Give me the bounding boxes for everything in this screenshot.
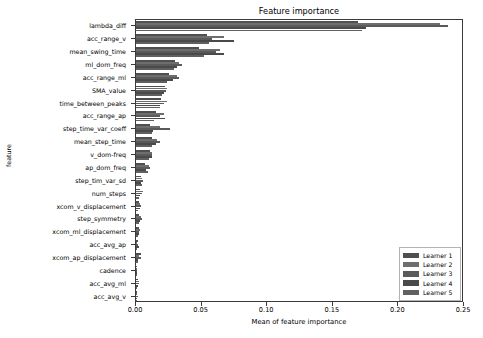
y-tick-mark	[131, 141, 135, 142]
y-tick-mark	[131, 38, 135, 39]
bar-group	[136, 47, 462, 57]
bar	[136, 132, 152, 134]
legend-label: Learner 1	[423, 252, 453, 259]
y-tick-mark	[131, 115, 135, 116]
bar	[136, 235, 138, 237]
x-tick-label: 0.25	[443, 306, 483, 314]
y-tick-label: acc_avg_v	[0, 292, 126, 299]
bar	[136, 94, 162, 96]
bar	[136, 145, 152, 147]
y-tick-label: xcom_v_displacement	[0, 202, 126, 209]
x-tick-mark	[397, 302, 398, 306]
legend-item[interactable]: Learner 4	[403, 279, 457, 288]
y-tick-mark	[131, 257, 135, 258]
y-tick-mark	[131, 25, 135, 26]
bar	[136, 287, 137, 289]
x-axis-label: Mean of feature importance	[135, 318, 463, 326]
y-tick-label: step_time_var_coeff	[0, 125, 126, 132]
bar-group	[136, 98, 462, 108]
bar	[136, 261, 138, 263]
y-tick-label: v_dom-freq	[0, 151, 126, 158]
bar-group	[136, 227, 462, 237]
bar	[136, 42, 209, 44]
x-tick-label: 0.15	[312, 306, 352, 314]
legend-item[interactable]: Learner 5	[403, 288, 457, 297]
bar	[136, 107, 160, 109]
bar	[136, 222, 139, 224]
y-tick-mark	[131, 180, 135, 181]
legend-label: Learner 5	[423, 289, 453, 296]
legend-item[interactable]: Learner 1	[403, 251, 457, 260]
figure-canvas: Feature importance feature lambda_diffac…	[0, 0, 483, 338]
legend-swatch-icon	[403, 271, 419, 276]
y-tick-label: step_tim_var_sd	[0, 176, 126, 183]
y-tick-label: xcom_ap_displacement	[0, 253, 126, 260]
bar-group	[136, 60, 462, 70]
bar	[136, 210, 138, 212]
y-tick-mark	[131, 51, 135, 52]
bar	[136, 30, 362, 32]
x-tick-label: 0.20	[377, 306, 417, 314]
bar-group	[136, 86, 462, 96]
legend-label: Learner 4	[423, 280, 453, 287]
bar-group	[136, 34, 462, 44]
bar	[136, 55, 204, 57]
y-tick-mark	[131, 128, 135, 129]
bar	[136, 171, 148, 173]
y-tick-label: acc_range_ml	[0, 73, 126, 80]
bar-group	[136, 163, 462, 173]
y-tick-mark	[131, 206, 135, 207]
bar	[136, 184, 142, 186]
bar	[136, 120, 154, 122]
bar-group	[136, 21, 462, 31]
y-tick-mark	[131, 283, 135, 284]
y-tick-label: acc_avg_ap	[0, 241, 126, 248]
bar-group	[136, 124, 462, 134]
y-tick-label: lambda_diff	[0, 22, 126, 29]
x-tick-mark	[332, 302, 333, 306]
legend-swatch-icon	[403, 262, 419, 267]
bar-group	[136, 189, 462, 199]
legend-swatch-icon	[403, 290, 419, 295]
bar-group	[136, 137, 462, 147]
y-tick-mark	[131, 218, 135, 219]
bar-group	[136, 176, 462, 186]
y-tick-mark	[131, 64, 135, 65]
legend-item[interactable]: Learner 2	[403, 260, 457, 269]
bar	[136, 197, 139, 199]
y-tick-label: mean_step_time	[0, 138, 126, 145]
y-tick-mark	[131, 103, 135, 104]
bar	[136, 81, 167, 83]
bar-group	[136, 150, 462, 160]
legend-swatch-icon	[403, 280, 419, 285]
x-tick-mark	[463, 302, 464, 306]
y-tick-label: xcom_ml_displacement	[0, 228, 126, 235]
y-tick-mark	[131, 244, 135, 245]
y-tick-mark	[131, 167, 135, 168]
bar	[136, 274, 137, 276]
y-tick-label: ml_dom_freq	[0, 61, 126, 68]
x-tick-mark	[266, 302, 267, 306]
legend-label: Learner 3	[423, 270, 453, 277]
x-tick-mark	[201, 302, 202, 306]
legend-swatch-icon	[403, 253, 419, 258]
bar-group	[136, 73, 462, 83]
y-tick-label: mean_swing_time	[0, 48, 126, 55]
legend-item[interactable]: Learner 3	[403, 269, 457, 278]
y-tick-label: cadence	[0, 266, 126, 273]
bar-group	[136, 214, 462, 224]
y-tick-label: acc_avg_ml	[0, 279, 126, 286]
y-tick-mark	[131, 231, 135, 232]
bar	[136, 300, 137, 302]
y-tick-mark	[131, 77, 135, 78]
legend-label: Learner 2	[423, 261, 453, 268]
legend[interactable]: Learner 1Learner 2Learner 3Learner 4Lear…	[399, 247, 461, 301]
page-title: Feature importance	[135, 6, 463, 16]
y-tick-label: acc_range_v	[0, 35, 126, 42]
x-tick-label: 0.00	[115, 306, 155, 314]
x-tick-label: 0.05	[181, 306, 221, 314]
y-tick-mark	[131, 270, 135, 271]
bar-group	[136, 201, 462, 211]
y-tick-label: num_steps	[0, 189, 126, 196]
y-tick-mark	[131, 296, 135, 297]
